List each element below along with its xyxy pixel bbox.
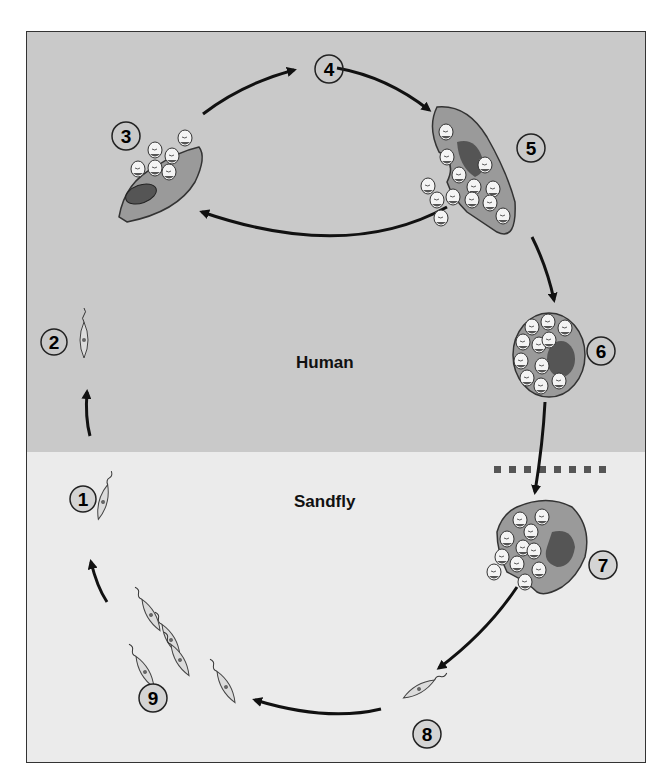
stage-marker-3: 3 xyxy=(112,122,140,150)
host-divider xyxy=(494,466,606,473)
stage-marker-1: 1 xyxy=(70,486,96,512)
svg-text:3: 3 xyxy=(121,126,132,147)
stage-marker-7: 7 xyxy=(589,551,617,579)
stage-marker-9: 9 xyxy=(139,684,167,712)
svg-text:5: 5 xyxy=(526,138,537,159)
macrophage-stage-6 xyxy=(513,313,585,397)
svg-text:6: 6 xyxy=(596,341,607,362)
sandfly-label: Sandfly xyxy=(294,492,355,512)
svg-text:1: 1 xyxy=(78,489,89,510)
stage-markers: 1 2 3 4 5 6 7 8 9 xyxy=(41,55,617,748)
macrophage-stage-7-rupturing xyxy=(487,501,587,594)
promastigote-stage-2 xyxy=(80,308,88,358)
svg-text:7: 7 xyxy=(598,555,609,576)
promastigote-stage-1 xyxy=(94,470,115,520)
stage-marker-2: 2 xyxy=(41,329,67,355)
life-cycle-diagram: 1 2 3 4 5 6 7 8 9 Human Sandfly xyxy=(26,31,646,763)
stage-marker-5: 5 xyxy=(517,134,545,162)
promastigotes-stage-9 xyxy=(126,585,239,704)
svg-text:8: 8 xyxy=(422,724,433,745)
cycle-graphics: 1 2 3 4 5 6 7 8 9 xyxy=(27,32,646,763)
human-label: Human xyxy=(296,353,354,373)
svg-text:9: 9 xyxy=(148,688,159,709)
promastigote-stage-8 xyxy=(401,670,448,702)
stage-marker-8: 8 xyxy=(413,720,441,748)
svg-text:4: 4 xyxy=(324,59,335,80)
svg-text:2: 2 xyxy=(49,332,60,353)
stage-marker-6: 6 xyxy=(587,337,615,365)
macrophage-stage-5-rupturing xyxy=(421,107,515,234)
macrophage-stage-3 xyxy=(119,130,202,222)
